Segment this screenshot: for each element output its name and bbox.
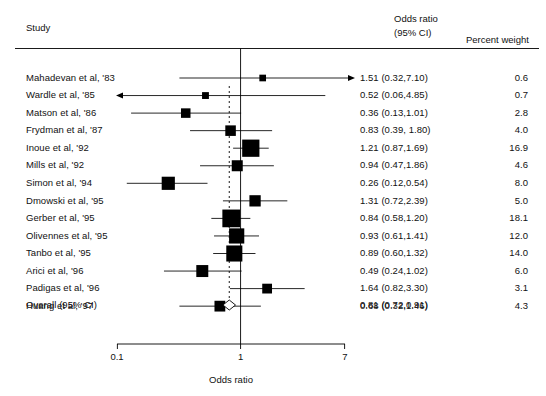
effect-estimate-label: 0.89 (0.60,1.32) xyxy=(360,247,428,258)
percent-weight-label: 3.1 xyxy=(515,282,528,293)
column-header-weight: Percent weight xyxy=(466,34,529,45)
percent-weight-label: 2.8 xyxy=(515,107,528,118)
effect-marker xyxy=(225,125,236,136)
percent-weight-label: 0.7 xyxy=(515,89,528,100)
percent-weight-label: 12.0 xyxy=(509,230,528,241)
ci-arrow-left-icon xyxy=(116,93,123,99)
ci-arrow-right-icon xyxy=(348,75,355,81)
effect-estimate-label: 0.52 (0.06,4.85) xyxy=(360,89,428,100)
x-axis-title: Odds ratio xyxy=(209,374,253,385)
percent-weight-label: 16.9 xyxy=(509,142,528,153)
study-label: Dmowski et al, '95 xyxy=(26,195,104,206)
effect-estimate-label: 0.94 (0.47,1.86) xyxy=(360,159,428,170)
x-tick-label: 0.1 xyxy=(110,351,123,362)
column-header-effect-line1: Odds ratio xyxy=(394,13,438,24)
study-label: Mahadevan et al, '83 xyxy=(26,72,115,83)
x-tick-label: 7 xyxy=(342,351,347,362)
effect-estimate-label: 0.83 (0.39, 1.80) xyxy=(360,124,431,135)
percent-weight-label: 0.6 xyxy=(515,72,528,83)
percent-weight-label: 4.6 xyxy=(515,159,528,170)
column-header-study: Study xyxy=(26,22,50,33)
effect-marker xyxy=(232,160,243,171)
effect-marker xyxy=(226,245,242,261)
effect-estimate-label: 0.93 (0.61,1.41) xyxy=(360,230,428,241)
study-label: Frydman et al, '87 xyxy=(26,124,103,135)
effect-estimate-label: 1.31 (0.72,2.39) xyxy=(360,195,428,206)
study-label: Matson et al, '86 xyxy=(26,107,96,118)
effect-estimate-label: 0.84 (0.58,1.20) xyxy=(360,212,428,223)
effect-estimate-label: 0.36 (0.13,1.01) xyxy=(360,107,428,118)
column-header-effect-line2: (95% CI) xyxy=(394,27,431,38)
effect-marker xyxy=(242,140,259,157)
study-label: Arici et al, '96 xyxy=(26,265,84,276)
study-label: Inoue et al, '92 xyxy=(26,142,89,153)
effect-estimate-label: 0.26 (0.12,0.54) xyxy=(360,177,428,188)
study-label: Tanbo et al, '95 xyxy=(26,247,91,258)
study-label: Mills et al, '92 xyxy=(26,159,84,170)
percent-weight-label: 8.0 xyxy=(515,177,528,188)
percent-weight-label: 6.0 xyxy=(515,265,528,276)
effect-marker xyxy=(229,228,244,243)
effect-marker xyxy=(222,210,240,228)
study-label: Padigas et al, '96 xyxy=(26,282,100,293)
effect-estimate-label: 1.21 (0.87,1.69) xyxy=(360,142,428,153)
percent-weight-label: 18.1 xyxy=(509,212,528,223)
study-label: Olivennes et al, '95 xyxy=(26,230,108,241)
effect-marker xyxy=(259,75,266,82)
x-tick-label: 1 xyxy=(238,351,243,362)
percent-weight-label: 4.0 xyxy=(515,124,528,135)
effect-estimate-label: 1.51 (0.32,7.10) xyxy=(360,72,428,83)
study-label: Wardle et al, '85 xyxy=(26,89,95,100)
study-label: Simon et al, '94 xyxy=(26,177,92,188)
effect-marker xyxy=(196,265,208,277)
effect-marker xyxy=(214,301,225,312)
percent-weight-label: 5.0 xyxy=(515,195,528,206)
overall-label: Overall (95% CI) xyxy=(26,299,97,310)
effect-marker xyxy=(249,195,260,206)
effect-marker xyxy=(202,92,209,99)
percent-weight-label: 14.0 xyxy=(509,247,528,258)
study-label: Gerber et al, '95 xyxy=(26,212,95,223)
percent-weight-label: 4.3 xyxy=(515,300,528,311)
effect-marker xyxy=(162,177,175,190)
overall-estimate-label: 0.81 (0.72,0.91) xyxy=(360,299,428,310)
effect-estimate-label: 1.64 (0.82,3.30) xyxy=(360,282,428,293)
effect-marker xyxy=(181,108,191,118)
effect-estimate-label: 0.49 (0.24,1.02) xyxy=(360,265,428,276)
effect-marker xyxy=(262,284,272,294)
